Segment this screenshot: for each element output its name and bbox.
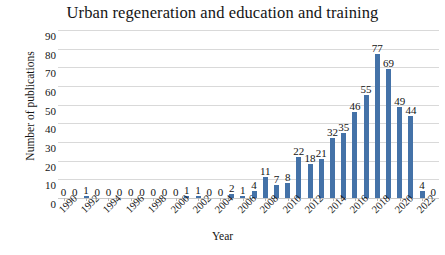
bar-slot[interactable]: 55	[360, 30, 371, 198]
bar-slot[interactable]: 7	[271, 30, 282, 198]
bar-value-label: 0	[61, 186, 67, 198]
bar-slot[interactable]: 49	[394, 30, 405, 198]
bar-slot[interactable]: 0	[58, 30, 69, 198]
bar-slot[interactable]: 8	[282, 30, 293, 198]
bar-slot[interactable]: 0	[204, 30, 215, 198]
bar-value-label: 32	[327, 126, 338, 138]
bar-slot[interactable]: 77	[372, 30, 383, 198]
y-axis-title: Number of publications	[24, 31, 36, 181]
bar-value-label: 44	[405, 104, 416, 116]
bar-slot[interactable]: 35	[338, 30, 349, 198]
bar-slot[interactable]: 1	[80, 30, 91, 198]
bar-slot[interactable]: 44	[405, 30, 416, 198]
bar-slot[interactable]: 32	[327, 30, 338, 198]
bar[interactable]: 44	[408, 116, 413, 198]
bar[interactable]: 35	[341, 133, 346, 198]
bar-slot[interactable]: 0	[125, 30, 136, 198]
bar-slot[interactable]: 69	[383, 30, 394, 198]
bar-slot[interactable]: 0	[136, 30, 147, 198]
bar-slot[interactable]: 0	[170, 30, 181, 198]
bar-value-label: 7	[274, 173, 280, 185]
bar-value-label: 22	[293, 145, 304, 157]
chart-title: Urban regeneration and education and tra…	[0, 3, 445, 23]
bar-slot[interactable]: 2	[226, 30, 237, 198]
bar-value-label: 2	[229, 182, 235, 194]
bar-slot[interactable]: 1	[237, 30, 248, 198]
bar[interactable]: 8	[285, 183, 290, 198]
bar-value-label: 35	[338, 121, 349, 133]
bar-value-label: 0	[128, 186, 134, 198]
bar[interactable]: 69	[386, 69, 391, 198]
x-axis-title: Year	[0, 230, 445, 242]
bar-slot[interactable]: 0	[215, 30, 226, 198]
chart-container: Urban regeneration and education and tra…	[0, 0, 445, 255]
bar-slot[interactable]: 0	[428, 30, 439, 198]
bar-slot[interactable]: 4	[417, 30, 428, 198]
bar[interactable]: 32	[330, 138, 335, 198]
bar-value-label: 11	[260, 165, 271, 177]
plot-area: 0010000000011002141178221821323546557769…	[58, 30, 439, 198]
bar-slot[interactable]: 0	[114, 30, 125, 198]
bar-slot[interactable]: 1	[181, 30, 192, 198]
bar-slot[interactable]: 46	[349, 30, 360, 198]
bar-value-label: 21	[316, 147, 327, 159]
bar[interactable]: 49	[397, 107, 402, 198]
bar-slot[interactable]: 21	[316, 30, 327, 198]
bar[interactable]: 18	[308, 164, 313, 198]
bar-value-label: 77	[372, 42, 383, 54]
bar-slot[interactable]: 0	[148, 30, 159, 198]
bar-value-label: 69	[383, 57, 394, 69]
bar[interactable]: 77	[375, 54, 380, 198]
bar-slot[interactable]: 11	[260, 30, 271, 198]
bar[interactable]: 22	[296, 157, 301, 198]
bar[interactable]: 46	[352, 112, 357, 198]
bar-slot[interactable]: 0	[92, 30, 103, 198]
bar-slot[interactable]: 4	[248, 30, 259, 198]
y-axis-title-wrapper: Number of publications	[8, 40, 22, 190]
bar-slot[interactable]: 0	[103, 30, 114, 198]
bar-slot[interactable]: 18	[304, 30, 315, 198]
y-axis-tick: 0	[24, 198, 56, 210]
bar-value-label: 1	[83, 184, 89, 196]
bar-value-label: 49	[394, 95, 405, 107]
bar-value-label: 4	[251, 179, 257, 191]
bar-value-label: 4	[419, 179, 425, 191]
bar-value-label: 1	[240, 184, 246, 196]
bar-value-label: 18	[305, 152, 316, 164]
bar[interactable]: 11	[263, 177, 268, 198]
y-axis-tick: 10	[24, 179, 56, 191]
bar-slot[interactable]: 22	[293, 30, 304, 198]
bar-series: 0010000000011002141178221821323546557769…	[58, 30, 439, 198]
bar-value-label: 8	[285, 171, 291, 183]
bar-slot[interactable]: 0	[159, 30, 170, 198]
bar-value-label: 55	[361, 83, 372, 95]
bar[interactable]: 55	[364, 95, 369, 198]
bar[interactable]: 21	[319, 159, 324, 198]
bar-slot[interactable]: 0	[69, 30, 80, 198]
bar-value-label: 0	[173, 186, 179, 198]
bar-slot[interactable]: 1	[192, 30, 203, 198]
bar-value-label: 46	[349, 100, 360, 112]
bar-value-label: 1	[195, 184, 201, 196]
